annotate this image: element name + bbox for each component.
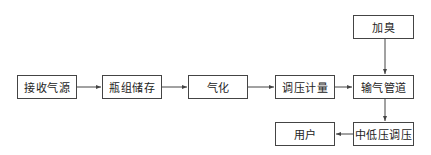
node-gas-pipeline: 输气管道 [353, 75, 414, 99]
node-cylinder-storage: 瓶组储存 [102, 75, 162, 99]
node-label: 瓶组储存 [109, 79, 155, 95]
node-label: 中低压调压 [355, 126, 413, 142]
node-pressure-regulate-metering: 调压计量 [275, 75, 335, 99]
node-label: 调压计量 [282, 79, 328, 95]
node-receive-gas-source: 接收气源 [17, 75, 77, 99]
node-label: 输气管道 [361, 79, 407, 95]
node-mid-low-pressure-regulation: 中低压调压 [353, 122, 414, 146]
node-label: 接收气源 [24, 79, 70, 95]
node-label: 用户 [294, 126, 317, 142]
node-label: 气化 [207, 79, 230, 95]
node-user: 用户 [275, 122, 335, 146]
node-label: 加臭 [372, 19, 395, 35]
node-odorization: 加臭 [353, 15, 414, 39]
node-vaporization: 气化 [188, 75, 248, 99]
